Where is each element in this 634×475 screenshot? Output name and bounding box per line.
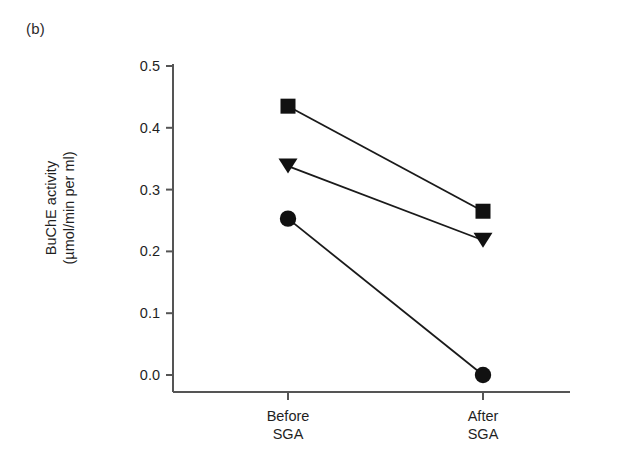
plot-area: 0.5 0.4 0.3 0.2 0.1 0.0 Before SGA After… [0, 0, 634, 475]
marker-triangle-after [474, 233, 493, 248]
axes-group [166, 64, 570, 400]
series-line-subject-circle [288, 219, 483, 375]
marker-circle-after [475, 367, 491, 383]
series-line-subject-triangle [288, 166, 483, 240]
chart-canvas [0, 0, 634, 475]
figure-panel-b: (b) BuChE activity (µmol/min per ml) 0.5… [0, 0, 634, 475]
series-line-subject-square [288, 106, 483, 211]
marker-triangle-before [279, 159, 298, 174]
series-group [279, 99, 493, 384]
marker-square-before [281, 99, 296, 114]
marker-square-after [476, 204, 491, 219]
marker-circle-before [280, 210, 296, 226]
